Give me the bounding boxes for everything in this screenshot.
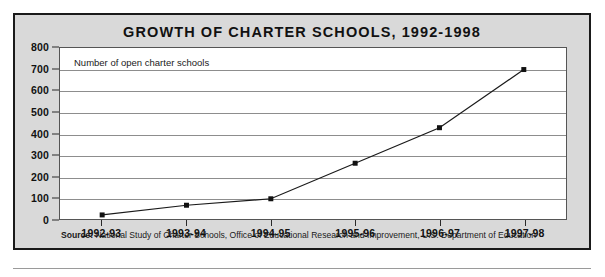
source-label: Source:: [61, 230, 93, 240]
x-tick-mark: [440, 220, 441, 226]
series-line: [102, 70, 524, 215]
y-tick-label: 500: [31, 106, 49, 118]
data-point-marker: [100, 212, 105, 217]
source-note: Source: National Study of Charter School…: [61, 230, 536, 240]
y-tick-mark: [52, 133, 59, 134]
x-tick-mark: [186, 220, 187, 226]
y-tick-label: 800: [31, 41, 49, 53]
data-point-marker: [353, 161, 358, 166]
y-tick-mark: [52, 47, 59, 48]
y-tick-mark: [52, 198, 59, 199]
y-tick-label: 100: [31, 192, 49, 204]
y-tick-mark: [52, 176, 59, 177]
data-point-marker: [437, 125, 442, 130]
y-tick-label: 200: [31, 171, 49, 183]
y-tick-label: 600: [31, 84, 49, 96]
chart-figure: GROWTH OF CHARTER SCHOOLS, 1992-1998 010…: [13, 13, 591, 250]
y-tick-label: 0: [43, 214, 49, 226]
y-tick-label: 400: [31, 128, 49, 140]
x-tick-mark: [271, 220, 272, 226]
source-text: National Study of Charter Schools, Offic…: [95, 230, 536, 240]
y-tick-mark: [52, 90, 59, 91]
chart-title: GROWTH OF CHARTER SCHOOLS, 1992-1998: [15, 24, 589, 40]
data-point-marker: [268, 196, 273, 201]
data-point-marker: [521, 67, 526, 72]
bottom-rule: [13, 268, 591, 269]
y-axis: 0100200300400500600700800: [15, 47, 59, 220]
y-tick-mark: [52, 111, 59, 112]
series-line-chart: [60, 48, 566, 220]
x-tick-mark: [355, 220, 356, 226]
x-tick-mark: [101, 220, 102, 226]
y-tick-label: 300: [31, 149, 49, 161]
data-point-marker: [184, 203, 189, 208]
y-tick-label: 700: [31, 63, 49, 75]
plot-area: Number of open charter schools: [59, 47, 567, 220]
x-tick-mark: [525, 220, 526, 226]
y-tick-mark: [52, 155, 59, 156]
y-tick-mark: [52, 220, 59, 221]
y-tick-mark: [52, 68, 59, 69]
